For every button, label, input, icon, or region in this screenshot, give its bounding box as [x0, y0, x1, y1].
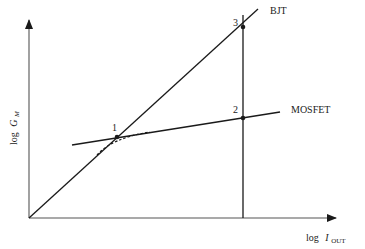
- dashed-transition-curve: [97, 132, 150, 155]
- point-1-marker: [115, 135, 120, 140]
- x-axis-label-prefix: log: [306, 232, 319, 243]
- point-3-label: 3: [233, 17, 238, 28]
- point-1-label: 1: [112, 122, 117, 133]
- y-axis-label-subscript: M: [13, 110, 21, 118]
- bjt-line: [29, 9, 258, 218]
- gm-vs-iout-diagram: 1 2 3 BJT MOSFET log G M log I OUT: [0, 0, 365, 249]
- mosfet-label: MOSFET: [291, 104, 330, 115]
- y-axis-label: log G M: [8, 110, 21, 145]
- point-3-marker: [241, 25, 246, 30]
- bjt-label: BJT: [270, 5, 287, 16]
- point-2-label: 2: [233, 104, 238, 115]
- y-axis-label-prefix: log: [8, 132, 19, 145]
- point-2-marker: [241, 116, 246, 121]
- x-axis-label-subscript: OUT: [331, 237, 346, 245]
- y-axis-label-symbol: G: [8, 119, 19, 126]
- mosfet-line: [72, 112, 280, 145]
- x-axis-label: log I OUT: [306, 232, 346, 245]
- x-axis-label-symbol: I: [324, 232, 329, 243]
